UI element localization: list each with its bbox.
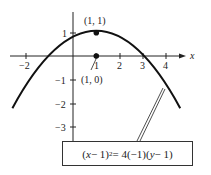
equation-leader-line [140,89,165,141]
x-tick-label: 4 [163,60,168,71]
eq-part: − 1) [155,148,173,160]
x-tick-label: 2 [117,60,122,71]
eq-part: − 1) [91,148,109,160]
x-tick-label: −2 [19,60,30,71]
y-tick-label: −3 [55,122,66,133]
x-tick-label: 3 [140,60,145,71]
y-tick-label: −2 [55,99,66,110]
vertex-point [94,30,100,36]
focus-label: (1, 0) [81,74,103,86]
equation-leader-line [137,88,163,141]
x-axis-arrow-icon [179,54,186,59]
focus-point [94,53,100,59]
eq-part: = 4(−1)( [113,148,150,160]
vertex-label: (1, 1) [84,15,106,27]
x-axis-label: x [189,50,195,61]
equation-label: (x − 1)2 = 4(−1)(y − 1) [62,141,193,166]
y-tick-label: 1 [62,28,67,39]
chart-figure: x −2 1 2 3 4 1 −1 −2 −3 [0,0,211,175]
y-tick-label: −1 [55,75,66,86]
